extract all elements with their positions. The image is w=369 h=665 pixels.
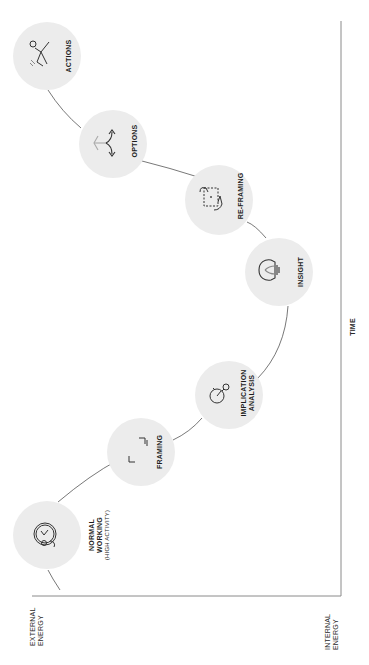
- label-actions: ACTIONS: [65, 34, 73, 78]
- label-framing: FRAMING: [156, 432, 164, 472]
- running-person-icon: [27, 38, 57, 68]
- diagram-canvas: NORMAL WORKING (HIGH ACTIVITY) FRAMING I…: [0, 0, 369, 665]
- label-normal-working: NORMAL WORKING (HIGH ACTIVITY): [88, 504, 111, 566]
- label-insight: INSIGHT: [297, 252, 305, 292]
- clock-person-icon: [30, 520, 60, 550]
- axis-label-internal-energy: INTERNAL ENERGY: [324, 604, 340, 650]
- frame-corners-icon: [123, 436, 151, 464]
- label-implication-analysis: IMPLICATION ANALYSIS: [240, 363, 256, 423]
- label-options: OPTIONS: [131, 119, 139, 163]
- lightbulb-icon: [255, 256, 283, 284]
- energy-curve: [48, 90, 288, 590]
- stopwatch-magnifier-icon: [207, 380, 233, 406]
- branching-arrows-icon: [92, 128, 122, 158]
- axis-label-external-energy: EXTERNAL ENERGY: [29, 600, 45, 646]
- hands-reframe-icon: [196, 182, 226, 212]
- label-re-framing: RE-FRAMING: [237, 166, 245, 226]
- axis-label-time: TIME: [349, 317, 357, 337]
